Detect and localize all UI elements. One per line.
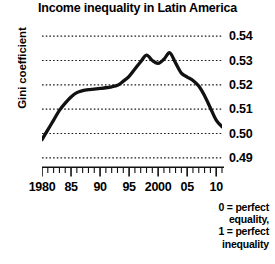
y-axis-title: Gini coefficient	[16, 0, 28, 138]
plot-area	[42, 24, 222, 170]
data-series-group	[42, 53, 222, 140]
axis-note-line-4: inequality	[149, 238, 269, 250]
chart-title: Income inequality in Latin America	[0, 1, 275, 16]
y-axis-tick-label: 0.50	[229, 128, 275, 140]
data-line	[42, 53, 222, 140]
x-axis-tick-label: 90	[93, 180, 106, 194]
line-chart-svg	[42, 24, 222, 170]
x-axis-ticks	[42, 167, 224, 176]
axis-note: 0 = perfect equality, 1 = perfect inequa…	[149, 201, 269, 250]
x-axis-tick-label: 1980	[29, 180, 56, 194]
x-axis-tick-label: 10	[210, 180, 223, 194]
x-axis	[42, 166, 224, 180]
axis-note-line-2: equality,	[149, 213, 269, 225]
y-axis-tick-labels: 0.540.530.520.510.500.49	[229, 24, 275, 170]
axis-note-line-1: 0 = perfect	[149, 201, 269, 213]
x-axis-tick-labels: 198085909520000510	[30, 180, 240, 196]
y-axis-tick-label: 0.52	[229, 79, 275, 91]
y-axis-tick-label: 0.54	[229, 30, 275, 42]
y-axis-tick-label: 0.51	[229, 103, 275, 115]
x-axis-tick-label: 95	[122, 180, 135, 194]
x-axis-tick-label: 2000	[145, 180, 172, 194]
axis-note-line-3: 1 = perfect	[149, 225, 269, 237]
y-axis-tick-label: 0.53	[229, 55, 275, 67]
y-axis-tick-label: 0.49	[229, 152, 275, 164]
chart-figure: Income inequality in Latin America Gini …	[0, 0, 275, 264]
x-axis-tick-label: 85	[64, 180, 77, 194]
x-axis-tick-label: 05	[181, 180, 194, 194]
x-axis-svg	[42, 166, 224, 180]
